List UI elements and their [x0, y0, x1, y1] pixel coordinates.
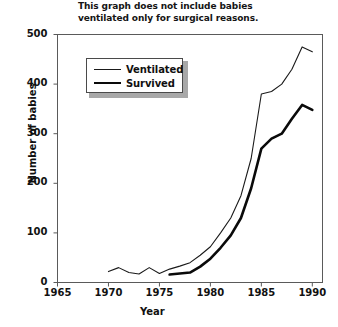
x-tick-label: 1985: [238, 287, 284, 298]
x-tick-label: 1990: [289, 287, 335, 298]
x-tick-label: 1970: [85, 287, 131, 298]
legend-label-ventilated: Ventilated: [126, 64, 183, 75]
chart-figure: This graph does not include babies venti…: [0, 0, 338, 327]
legend: Ventilated Survived: [86, 58, 183, 93]
x-tick-label: 1975: [136, 287, 182, 298]
legend-label-survived: Survived: [126, 78, 175, 89]
x-tick-label: 1965: [35, 287, 81, 298]
y-axis-title: Number of babies: [27, 74, 38, 194]
x-tick-label: 1980: [187, 287, 233, 298]
legend-item-survived: Survived: [94, 76, 175, 90]
y-tick-label: 0: [8, 276, 48, 287]
series-line-survived: [170, 105, 313, 275]
plot-area: [0, 0, 338, 327]
legend-swatch-ventilated-icon: [94, 69, 121, 70]
y-tick-label: 100: [8, 226, 48, 237]
x-tick-marks: [58, 283, 313, 287]
y-tick-label: 500: [8, 28, 48, 39]
legend-swatch-survived-icon: [94, 82, 121, 84]
y-tick-marks: [54, 35, 58, 283]
legend-item-ventilated: Ventilated: [94, 62, 183, 76]
x-axis-title: Year: [140, 306, 165, 317]
